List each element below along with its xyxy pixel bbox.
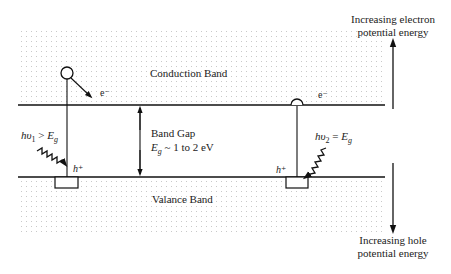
hole-energy-label-line1: Increasing hole — [343, 234, 443, 247]
left-electron-circle — [61, 67, 73, 79]
valence-band-label: Valance Band — [152, 193, 213, 206]
hole-energy-label-line2: potential energy — [343, 247, 443, 260]
band-diagram-canvas — [0, 0, 451, 274]
left-hole-box — [55, 177, 78, 188]
photon-right-E-subscript: g — [348, 136, 352, 145]
electron-energy-label: Increasing electron potential energy — [343, 13, 443, 39]
electron-label-right: e⁻ — [318, 88, 328, 101]
photon-left-label: hυ1 > Eg — [21, 129, 58, 146]
conduction-band-label: Conduction Band — [150, 67, 227, 80]
band-gap-range: ~ 1 to 2 eV — [162, 141, 214, 153]
photon-left-E: E — [47, 129, 54, 141]
band-gap-symbol: E — [151, 141, 158, 153]
photon-left-energy: hυ — [21, 129, 32, 141]
electron-energy-label-line2: potential energy — [343, 26, 443, 39]
electron-energy-label-line1: Increasing electron — [343, 13, 443, 26]
band-gap-label: Band Gap — [151, 127, 195, 140]
photon-right-E: E — [341, 130, 348, 142]
hole-label-left: h⁺ — [73, 162, 83, 175]
photon-right-energy: hυ — [315, 130, 326, 142]
photon-left-relation: > — [36, 129, 48, 141]
band-gap-value: Eg ~ 1 to 2 eV — [151, 141, 214, 158]
left-photon-wave — [37, 148, 65, 164]
photon-right-relation: = — [330, 130, 342, 142]
right-photon-wave — [306, 148, 326, 177]
right-hole-box — [286, 177, 308, 188]
right-electron-circle — [291, 99, 303, 105]
photon-right-label: hυ2 = Eg — [315, 130, 352, 147]
hole-energy-label: Increasing hole potential energy — [343, 234, 443, 260]
photon-left-E-subscript: g — [54, 135, 58, 144]
hole-label-right: h⁺ — [276, 163, 286, 176]
electron-label-left: e⁻ — [100, 86, 110, 99]
